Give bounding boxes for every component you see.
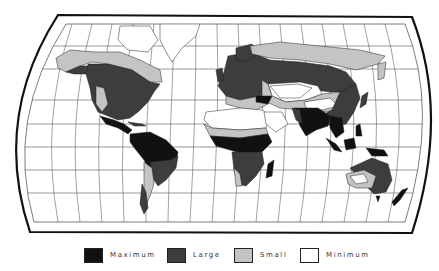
sahara-min	[204, 108, 270, 130]
borneo	[344, 138, 356, 150]
legend-swatch-maximum	[84, 248, 103, 263]
legend-item-minimum: Minimum	[300, 246, 370, 264]
legend-label: Minimum	[326, 251, 370, 259]
legend-swatch-minimum	[300, 248, 319, 263]
legend-label: Small	[260, 251, 287, 259]
legend-swatch-small	[234, 248, 253, 263]
legend-label: Large	[193, 251, 221, 259]
world-map	[0, 0, 439, 271]
legend-label: Maximum	[110, 251, 156, 259]
legend-item-maximum: Maximum	[84, 246, 156, 264]
legend: Maximum Large Small Minimum	[0, 246, 439, 266]
legend-swatch-large	[167, 248, 186, 263]
legend-item-small: Small	[234, 246, 287, 264]
legend-item-large: Large	[167, 246, 221, 264]
